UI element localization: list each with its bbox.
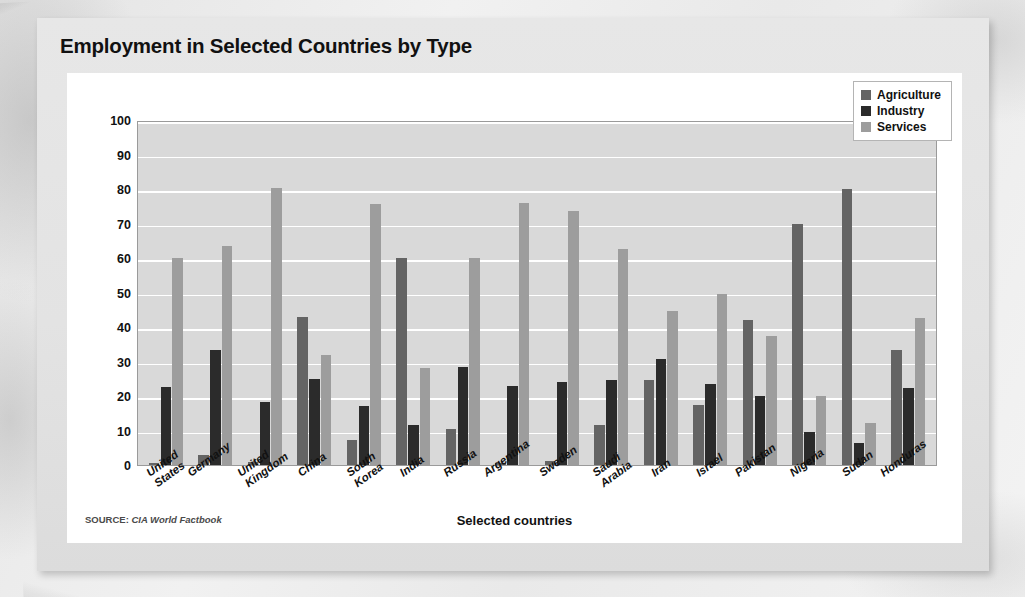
chart-panel: Percent of population 100908070605040302… bbox=[67, 73, 962, 543]
bar-group bbox=[537, 122, 587, 465]
bar-agriculture bbox=[693, 405, 704, 465]
y-tick-label: 0 bbox=[124, 459, 131, 473]
bar-groups bbox=[138, 122, 936, 465]
bar-services bbox=[618, 249, 629, 465]
bar-group bbox=[884, 122, 934, 465]
bar-group bbox=[636, 122, 686, 465]
y-tick-label: 50 bbox=[117, 287, 131, 301]
bar-group bbox=[785, 122, 835, 465]
legend-item: Agriculture bbox=[861, 87, 941, 103]
source-kicker: SOURCE: bbox=[85, 514, 129, 525]
legend-label: Agriculture bbox=[877, 88, 941, 102]
y-tick-label: 60 bbox=[117, 252, 131, 266]
bar-group bbox=[339, 122, 389, 465]
y-tick-label: 20 bbox=[117, 390, 131, 404]
legend-item: Services bbox=[861, 119, 941, 135]
bar-services bbox=[420, 368, 431, 465]
bar-group bbox=[389, 122, 439, 465]
y-tick-label: 30 bbox=[117, 356, 131, 370]
bar-group bbox=[834, 122, 884, 465]
bar-group bbox=[488, 122, 538, 465]
bar-group bbox=[141, 122, 191, 465]
bar-group bbox=[735, 122, 785, 465]
bar-services bbox=[321, 355, 332, 465]
bar-group bbox=[587, 122, 637, 465]
bar-agriculture bbox=[396, 258, 407, 465]
bar-services bbox=[667, 311, 678, 465]
y-tick-label: 90 bbox=[117, 149, 131, 163]
legend-swatch-icon bbox=[861, 90, 871, 100]
bar-agriculture bbox=[743, 320, 754, 465]
legend-swatch-icon bbox=[861, 122, 871, 132]
bar-group bbox=[438, 122, 488, 465]
bar-services bbox=[222, 246, 233, 465]
source-name: CIA World Factbook bbox=[131, 514, 221, 525]
y-tick-label: 40 bbox=[117, 321, 131, 335]
legend-item: Industry bbox=[861, 103, 941, 119]
source-note: SOURCE: CIA World Factbook bbox=[85, 514, 222, 525]
y-tick-label: 70 bbox=[117, 218, 131, 232]
y-tick-label: 100 bbox=[110, 114, 131, 128]
y-axis-ticks: 1009080706050403020100 bbox=[91, 121, 131, 466]
chart-legend: AgricultureIndustryServices bbox=[853, 81, 952, 141]
bar-services bbox=[519, 203, 530, 465]
bar-services bbox=[370, 204, 381, 465]
bar-group bbox=[191, 122, 241, 465]
bar-agriculture bbox=[792, 224, 803, 466]
bar-group bbox=[686, 122, 736, 465]
bar-group bbox=[290, 122, 340, 465]
bar-chart: Percent of population 100908070605040302… bbox=[67, 73, 962, 543]
bar-services bbox=[568, 211, 579, 465]
bar-group bbox=[240, 122, 290, 465]
chart-card: Employment in Selected Countries by Type… bbox=[37, 18, 989, 571]
bar-agriculture bbox=[297, 317, 308, 465]
bar-agriculture bbox=[891, 350, 902, 465]
legend-label: Industry bbox=[877, 104, 924, 118]
bar-agriculture bbox=[842, 189, 853, 465]
bar-services bbox=[717, 294, 728, 465]
bar-services bbox=[469, 258, 480, 465]
y-tick-label: 80 bbox=[117, 183, 131, 197]
legend-swatch-icon bbox=[861, 106, 871, 116]
bar-services bbox=[271, 188, 282, 465]
plot-area bbox=[137, 121, 937, 466]
legend-label: Services bbox=[877, 120, 926, 134]
y-tick-label: 10 bbox=[117, 425, 131, 439]
page-title: Employment in Selected Countries by Type bbox=[60, 34, 472, 58]
bar-agriculture bbox=[644, 380, 655, 465]
bar-services bbox=[172, 258, 183, 465]
bar-industry bbox=[656, 359, 667, 465]
